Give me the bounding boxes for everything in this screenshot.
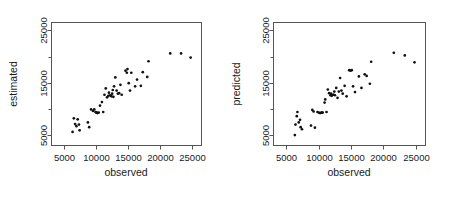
data-point: [113, 85, 116, 88]
data-point: [136, 78, 139, 81]
data-point: [335, 87, 338, 90]
data-point: [312, 110, 315, 113]
data-point: [111, 92, 114, 95]
x-axis-ticks-left: [65, 146, 193, 150]
x-axis-tick-labels-left: 500010000150002000025000: [54, 152, 206, 163]
data-point: [310, 124, 313, 127]
y-tick-label: 15000: [260, 70, 271, 96]
data-point: [141, 71, 144, 74]
data-point: [333, 90, 336, 93]
data-point: [352, 85, 355, 88]
data-point: [321, 111, 324, 114]
data-point: [93, 108, 96, 111]
data-point: [108, 91, 111, 94]
data-point: [324, 98, 327, 101]
y-tick-label: 25000: [260, 17, 271, 43]
x-tick-label: 20000: [147, 152, 173, 163]
data-point: [78, 129, 81, 132]
data-point: [301, 128, 304, 131]
data-point: [392, 52, 395, 55]
data-point: [345, 95, 348, 98]
x-axis-tick-labels-right: 500010000150002000025000: [276, 152, 430, 163]
data-point: [71, 131, 74, 134]
figure-container: 50001500025000 500010000150002000025000 …: [0, 0, 455, 198]
data-point: [134, 85, 137, 88]
data-point: [325, 111, 328, 114]
y-axis-tick-labels-right: 50001500025000: [260, 17, 271, 146]
x-tick-label: 25000: [403, 152, 429, 163]
data-point: [336, 97, 339, 100]
data-point: [87, 121, 90, 124]
scatter-plot-estimated: 50001500025000 500010000150002000025000 …: [0, 0, 228, 198]
data-point: [112, 95, 115, 98]
data-point: [147, 60, 150, 63]
data-point: [314, 126, 317, 129]
x-axis-ticks-right: [287, 146, 417, 150]
y-axis-title-left: estimated: [7, 61, 19, 107]
data-point: [323, 101, 326, 104]
x-tick-label: 20000: [370, 152, 396, 163]
data-point: [146, 76, 149, 79]
data-point: [88, 126, 91, 129]
data-point: [189, 56, 192, 59]
data-point: [115, 89, 118, 92]
data-point: [413, 61, 416, 64]
data-point: [180, 52, 183, 55]
y-tick-label: 25000: [38, 17, 49, 43]
data-point: [119, 83, 122, 86]
data-point: [334, 94, 337, 97]
data-point: [140, 84, 143, 87]
x-tick-label: 25000: [179, 152, 205, 163]
data-point: [169, 52, 172, 55]
data-point: [120, 93, 123, 96]
data-point: [343, 84, 346, 87]
x-axis-title-left: observed: [104, 166, 147, 178]
scatter-plot-predicted: 50001500025000 500010000150002000025000 …: [228, 0, 455, 198]
data-point: [76, 118, 79, 121]
data-points-right: [293, 52, 415, 137]
x-tick-label: 5000: [54, 152, 75, 163]
data-point: [72, 117, 75, 120]
y-axis-title-right: predicted: [230, 62, 242, 105]
data-point: [104, 87, 107, 90]
data-point: [295, 115, 298, 118]
data-point: [296, 111, 299, 114]
data-point: [299, 119, 302, 122]
y-tick-label: 5000: [38, 125, 49, 146]
data-point: [365, 75, 368, 78]
x-tick-label: 5000: [276, 152, 297, 163]
data-point: [129, 89, 132, 92]
plot-frame-right: [274, 23, 426, 146]
x-tick-label: 15000: [338, 152, 364, 163]
data-point: [99, 104, 102, 107]
data-point: [103, 93, 106, 96]
data-point: [111, 89, 114, 92]
data-point: [339, 77, 342, 80]
scatter-panel-estimated: 50001500025000 500010000150002000025000 …: [0, 0, 228, 198]
data-point: [102, 111, 105, 114]
data-point: [294, 123, 297, 126]
y-tick-label: 15000: [38, 70, 49, 96]
data-point: [326, 88, 329, 91]
y-tick-label: 5000: [260, 125, 271, 146]
data-point: [127, 82, 130, 85]
y-axis-tick-labels-left: 50001500025000: [38, 17, 49, 146]
data-point: [340, 89, 343, 92]
data-point: [358, 75, 361, 78]
data-point: [369, 82, 372, 85]
x-axis-title-right: observed: [327, 166, 370, 178]
data-point: [126, 68, 129, 71]
data-point: [101, 101, 104, 104]
data-point: [403, 54, 406, 57]
data-point: [118, 92, 121, 95]
data-point: [125, 71, 128, 74]
x-tick-label: 15000: [115, 152, 141, 163]
data-point: [78, 123, 81, 126]
data-point: [370, 60, 373, 63]
x-tick-label: 10000: [306, 152, 332, 163]
data-point: [337, 90, 340, 93]
data-point: [97, 111, 100, 114]
data-point: [293, 134, 296, 137]
data-point: [350, 69, 353, 72]
data-point: [360, 87, 363, 90]
